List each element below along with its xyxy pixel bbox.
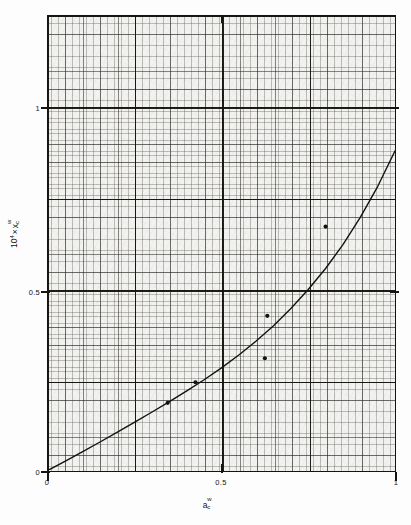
y-tick-0.5-right [390, 291, 399, 293]
data-layer [48, 16, 395, 470]
data-point-group [166, 225, 328, 405]
x-axis-title: awc [203, 500, 208, 510]
y-axis-title: 104×xwc [9, 224, 20, 248]
data-point [193, 380, 197, 384]
figure-canvas: 0 0.5 1 0 0.5 1 104×xwc awc [0, 0, 411, 525]
data-point [323, 225, 327, 229]
x-axis-title-superscript: w [207, 496, 211, 502]
x-tick-0.5-top [221, 15, 223, 23]
x-axis-title-variable: awc [203, 500, 208, 510]
fitted-curve [48, 151, 395, 470]
y-axis-title-variable: xwc [9, 224, 19, 228]
x-tick-label-0.5: 0.5 [215, 478, 226, 487]
y-tick-label-1: 1 [30, 104, 40, 113]
y-axis-title-superscript: w [5, 220, 11, 224]
y-axis-title-times: × [9, 228, 19, 235]
x-tick-0.5 [221, 464, 223, 473]
data-point [265, 314, 269, 318]
y-tick-label-0.5: 0.5 [22, 288, 40, 297]
y-axis-title-exponent: 4 [9, 235, 15, 238]
x-tick-label-1: 1 [394, 478, 398, 487]
y-tick-0.5 [41, 291, 50, 293]
x-tick-label-0: 0 [45, 478, 49, 487]
y-tick-1 [41, 107, 50, 109]
plot-area [47, 15, 396, 472]
data-point [166, 401, 170, 405]
y-axis-title-prefix: 10 [9, 239, 19, 248]
data-point [263, 356, 267, 360]
y-tick-1-right [390, 107, 399, 109]
y-axis-title-base: x [9, 224, 19, 228]
y-axis-title-subscript: c [13, 221, 19, 224]
y-tick-label-0: 0 [30, 468, 40, 477]
y-tick-0 [41, 471, 50, 473]
x-axis-title-subscript: c [207, 504, 210, 510]
